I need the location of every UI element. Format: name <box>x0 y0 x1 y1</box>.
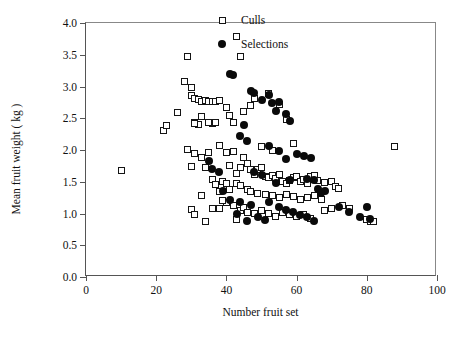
x-axis-tick <box>156 275 157 281</box>
data-point-culls <box>304 194 311 201</box>
data-point-culls <box>391 143 398 150</box>
data-point-culls <box>247 188 254 195</box>
data-point-culls <box>205 119 212 126</box>
data-point-culls <box>163 122 170 129</box>
y-axis-tick <box>80 87 86 88</box>
y-axis-title: Mean fruit weight ( kg ) <box>10 32 30 286</box>
data-point-selections <box>286 117 294 125</box>
x-axis-tick-label: 80 <box>361 284 373 296</box>
data-point-selections <box>282 155 290 163</box>
data-point-culls <box>230 148 237 155</box>
data-point-culls <box>202 218 209 225</box>
data-point-culls <box>226 112 233 119</box>
data-point-selections <box>275 98 283 106</box>
data-point-selections <box>258 171 266 179</box>
data-point-selections <box>215 168 223 176</box>
y-axis-tick-label: 3.0 <box>63 81 77 93</box>
legend-label: Selections <box>241 38 288 50</box>
data-point-culls <box>226 186 233 193</box>
data-point-culls <box>118 167 125 174</box>
data-point-culls <box>283 191 290 198</box>
data-point-selections <box>272 107 280 115</box>
data-point-culls <box>262 191 269 198</box>
data-point-selections <box>307 154 315 162</box>
data-point-selections <box>261 216 269 224</box>
x-axis-tick-label: 20 <box>150 284 162 296</box>
data-point-culls <box>247 102 254 109</box>
data-point-culls <box>237 164 244 171</box>
data-point-selections <box>363 203 371 211</box>
data-point-culls <box>188 84 195 91</box>
x-axis-tick <box>367 275 368 281</box>
data-point-culls <box>191 211 198 218</box>
y-axis-tick-label: 3.5 <box>63 49 77 61</box>
x-axis-tick-label: 40 <box>221 284 233 296</box>
y-axis-tick-label: 2.5 <box>63 112 77 124</box>
data-point-culls <box>258 164 265 171</box>
data-point-culls <box>276 194 283 201</box>
data-point-culls <box>240 108 247 115</box>
data-point-selections <box>275 147 283 155</box>
y-axis-tick <box>80 55 86 56</box>
data-point-culls <box>223 104 230 111</box>
data-point-selections <box>243 217 251 225</box>
data-point-selections <box>247 201 255 209</box>
data-point-selections <box>265 142 273 150</box>
data-point-selections <box>335 203 343 211</box>
y-axis-tick <box>80 118 86 119</box>
data-point-selections <box>272 179 280 187</box>
y-axis-tick <box>80 23 86 24</box>
data-point-culls <box>191 120 198 127</box>
x-axis-tick-label: 60 <box>291 284 303 296</box>
data-point-culls <box>290 140 297 147</box>
data-point-selections <box>219 187 227 195</box>
y-axis-tick-label: 4.0 <box>63 17 77 29</box>
y-axis-tick <box>80 214 86 215</box>
data-point-culls <box>318 196 325 203</box>
x-axis-tick <box>86 275 87 281</box>
y-axis-tick <box>80 150 86 151</box>
data-point-selections <box>366 215 374 223</box>
data-point-culls <box>198 113 205 120</box>
data-point-culls <box>254 190 261 197</box>
data-point-culls <box>191 150 198 157</box>
data-point-selections <box>233 210 241 218</box>
data-point-culls <box>321 207 328 214</box>
data-point-culls <box>209 205 216 212</box>
x-axis-tick <box>297 275 298 281</box>
data-point-culls <box>216 97 223 104</box>
y-axis-tick-label: 1.5 <box>63 176 77 188</box>
x-axis-title: Number fruit set <box>85 306 436 318</box>
legend-entry: Culls <box>214 8 288 32</box>
data-point-culls <box>335 185 342 192</box>
data-point-selections <box>229 71 237 79</box>
data-point-culls <box>184 146 191 153</box>
data-point-culls <box>230 119 237 126</box>
data-point-culls <box>184 53 191 60</box>
data-point-selections <box>265 198 273 206</box>
data-point-culls <box>226 162 233 169</box>
y-axis-tick <box>80 245 86 246</box>
data-point-culls <box>258 143 265 150</box>
data-point-selections <box>243 137 251 145</box>
data-point-layer <box>86 23 435 275</box>
data-point-selections <box>356 213 364 221</box>
data-point-culls <box>290 193 297 200</box>
y-axis-tick-label: 2.0 <box>63 144 77 156</box>
data-point-culls <box>181 78 188 85</box>
x-axis-tick <box>437 275 438 281</box>
data-point-culls <box>244 209 251 216</box>
data-point-culls <box>188 163 195 170</box>
data-point-culls <box>212 119 219 126</box>
data-point-selections <box>310 217 318 225</box>
y-axis-tick-label: 1.0 <box>63 208 77 220</box>
plot-area: 0.00.51.01.52.02.53.03.54.0 020406080100 <box>85 22 436 276</box>
data-point-selections <box>258 96 266 104</box>
data-point-selections <box>345 208 353 216</box>
x-axis-tick <box>226 275 227 281</box>
data-point-culls <box>276 171 283 178</box>
data-point-culls <box>216 142 223 149</box>
data-point-culls <box>174 109 181 116</box>
data-point-culls <box>321 179 328 186</box>
y-axis-tick-label: 0.0 <box>63 271 77 283</box>
